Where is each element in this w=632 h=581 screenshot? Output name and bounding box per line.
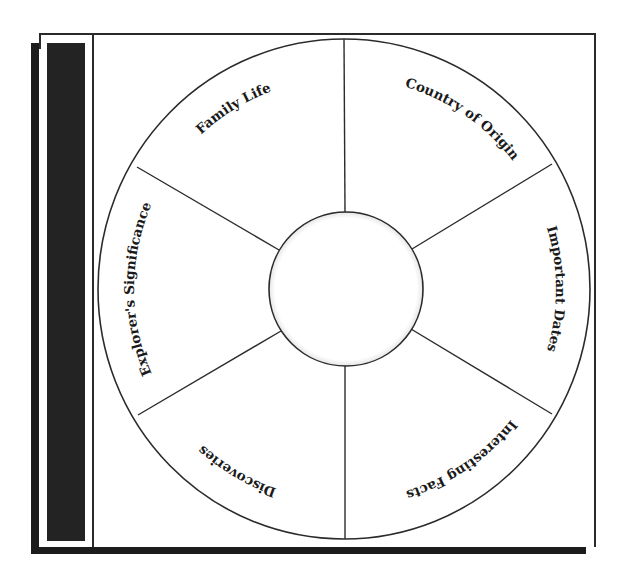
organizer-wheel: Family Life Country of Origin Important … — [0, 0, 632, 581]
center-circle[interactable] — [269, 212, 423, 366]
